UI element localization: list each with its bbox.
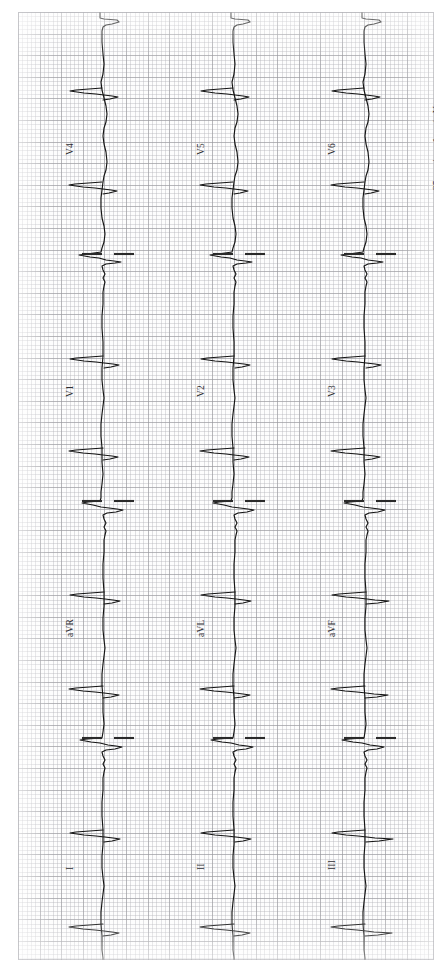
- lead-label-v4: V4: [65, 143, 75, 155]
- lead-label-i: I: [65, 867, 75, 870]
- ecg-page: V4 V5 V6 V1 V2 V3 aVR aVL aVF I II III 2…: [0, 0, 444, 977]
- ecg-qrs-complexes-column-3: [331, 88, 393, 936]
- lead-label-avf: aVF: [327, 620, 337, 637]
- ecg-column-2: [200, 12, 265, 960]
- lead-label-avr: aVR: [65, 619, 75, 637]
- lead-label-ii: II: [196, 863, 206, 870]
- ecg-paper-sheet: V4 V5 V6 V1 V2 V3 aVR aVL aVF I II III 2…: [18, 12, 434, 960]
- ecg-trace-column-2: [210, 12, 254, 960]
- ecg-column-3: [331, 12, 396, 960]
- ecg-traces: [18, 12, 434, 960]
- calibration-label: 25 mm/sec; 1 cm/mV: [432, 106, 434, 190]
- lead-label-v5: V5: [196, 143, 206, 155]
- lead-label-v6: V6: [327, 143, 337, 155]
- lead-label-v2: V2: [196, 385, 206, 397]
- ecg-column-1: [69, 12, 134, 960]
- lead-label-avl: aVL: [196, 620, 206, 637]
- lead-label-v3: V3: [327, 385, 337, 397]
- lead-label-v1: V1: [65, 385, 75, 397]
- lead-label-iii: III: [327, 860, 337, 870]
- ecg-trace-column-1: [79, 12, 123, 960]
- ecg-trace-column-3: [341, 12, 385, 960]
